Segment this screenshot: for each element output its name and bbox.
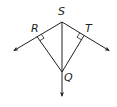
label-q: Q bbox=[64, 71, 73, 84]
label-r: R bbox=[31, 22, 39, 35]
right-angle-mark-t bbox=[77, 33, 81, 40]
segment-t-q bbox=[62, 36, 84, 73]
label-t: T bbox=[85, 22, 93, 35]
segment-r-q bbox=[37, 37, 62, 73]
label-s: S bbox=[58, 5, 65, 18]
geometry-diagram: S R T Q bbox=[0, 0, 117, 107]
